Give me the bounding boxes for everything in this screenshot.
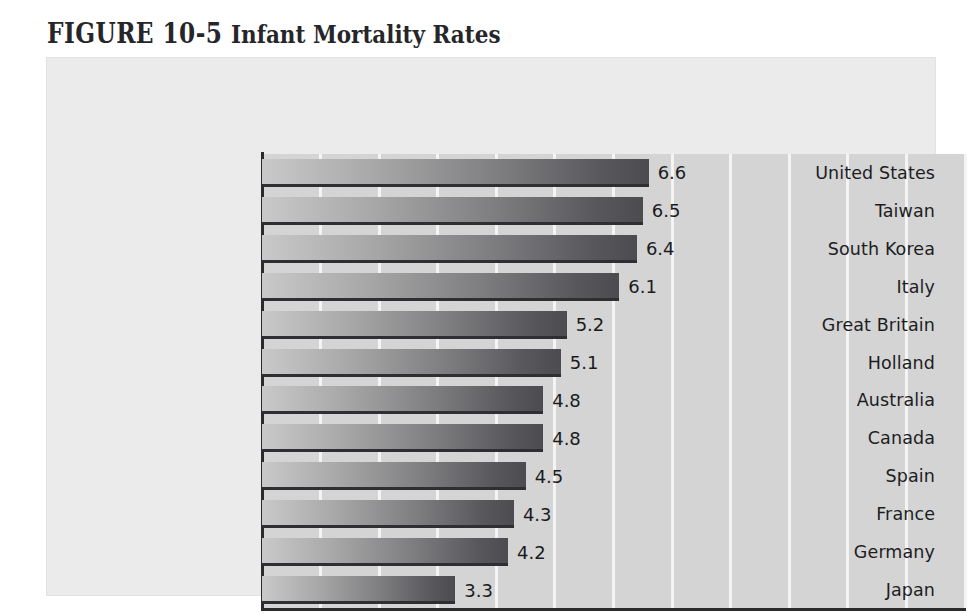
bar-value-label: 3.3 — [455, 576, 493, 604]
bar-row[interactable]: Canada4.8 — [47, 419, 935, 457]
figure-title: FIGURE 10-5 Infant Mortality Rates — [47, 18, 544, 54]
bar-value-label: 6.4 — [637, 235, 675, 263]
figure-name-label: Infant Mortality Rates — [231, 20, 501, 49]
bar-value-label: 4.5 — [526, 462, 564, 490]
bar[interactable] — [262, 273, 619, 301]
bar-value-label: 6.1 — [619, 273, 657, 301]
category-label: Germany — [734, 533, 935, 571]
bar-row[interactable]: Great Britain5.2 — [47, 306, 935, 344]
bar-row[interactable]: United States6.6 — [47, 154, 935, 192]
category-label: Great Britain — [734, 306, 935, 344]
bar-value-label: 5.2 — [567, 311, 605, 339]
bar-value-label: 4.2 — [508, 538, 546, 566]
bar[interactable] — [262, 538, 508, 566]
bar[interactable] — [262, 424, 543, 452]
category-label: France — [734, 495, 935, 533]
bar[interactable] — [262, 576, 455, 604]
bar-value-label: 6.6 — [649, 159, 687, 187]
bar[interactable] — [262, 462, 526, 490]
bar-row[interactable]: Taiwan6.5 — [47, 192, 935, 230]
bar-row[interactable]: Australia4.8 — [47, 382, 935, 420]
chart-panel: United States6.6Taiwan6.5South Korea6.4I… — [47, 58, 935, 595]
bar-row[interactable]: Italy6.1 — [47, 268, 935, 306]
bar-row[interactable]: Spain4.5 — [47, 457, 935, 495]
category-label: Canada — [734, 419, 935, 457]
bar[interactable] — [262, 386, 543, 414]
bar-row[interactable]: France4.3 — [47, 495, 935, 533]
category-label: Spain — [734, 457, 935, 495]
bar[interactable] — [262, 197, 643, 225]
bar[interactable] — [262, 159, 649, 187]
category-label: Holland — [734, 344, 935, 382]
figure-number-label: FIGURE 10-5 — [47, 18, 222, 49]
bar-value-label: 5.1 — [561, 349, 599, 377]
bar-row[interactable]: Japan3.3 — [47, 571, 935, 609]
category-label: Japan — [734, 571, 935, 609]
category-label: Taiwan — [734, 192, 935, 230]
bar-value-label: 4.8 — [543, 424, 581, 452]
bar[interactable] — [262, 311, 567, 339]
bar-row[interactable]: South Korea6.4 — [47, 230, 935, 268]
bar[interactable] — [262, 500, 514, 528]
gridline — [964, 154, 967, 609]
bar-value-label: 6.5 — [643, 197, 681, 225]
category-label: Italy — [734, 268, 935, 306]
bar-row[interactable]: Holland5.1 — [47, 344, 935, 382]
category-label: South Korea — [734, 230, 935, 268]
bar[interactable] — [262, 235, 637, 263]
category-label: Australia — [734, 382, 935, 420]
bar[interactable] — [262, 349, 561, 377]
bar-value-label: 4.3 — [514, 500, 552, 528]
bar-value-label: 4.8 — [543, 386, 581, 414]
bar-row[interactable]: Germany4.2 — [47, 533, 935, 571]
category-label: United States — [734, 154, 935, 192]
